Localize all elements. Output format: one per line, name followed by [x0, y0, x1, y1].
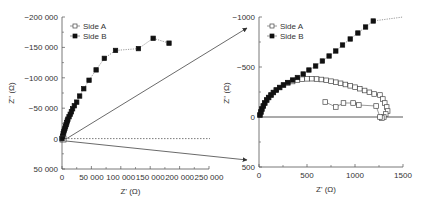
y-tick-label: 500 [242, 163, 256, 172]
data-point [363, 25, 367, 29]
data-point [329, 79, 334, 84]
y-tick-label: −100 000 [24, 74, 58, 83]
open-square-marker-icon [270, 24, 274, 28]
y-tick-label: −50 000 [29, 104, 59, 113]
impedance-figure: −200 000−150 000−100 000−50 000050 00005… [0, 0, 423, 206]
data-point [340, 43, 344, 47]
x-tick-label: 1500 [394, 171, 412, 180]
legend-label: Side B [280, 32, 304, 41]
filled-square-marker-icon [270, 34, 274, 38]
y-tick-label: −200 000 [24, 13, 58, 22]
data-point [323, 100, 328, 105]
series-side-b [60, 36, 171, 141]
data-point [324, 78, 329, 83]
data-point [290, 78, 294, 82]
data-point [378, 115, 383, 120]
x-tick-label: 100 000 [106, 173, 135, 182]
right-nyquist-plot-zoomed: −1000−5000500050010001500Z' (Ω)Z'' (Ω)Si… [222, 13, 412, 194]
legend-label: Side B [83, 32, 107, 41]
data-point [351, 101, 356, 106]
data-point [338, 81, 343, 86]
y-tick-label: −150 000 [24, 43, 58, 52]
data-point [334, 49, 338, 53]
data-point [327, 54, 331, 58]
x-tick-label: 500 [300, 171, 314, 180]
zoom-connector-arrows [66, 28, 247, 160]
data-point [286, 80, 290, 84]
x-axis-label: Z' (Ω) [316, 185, 336, 194]
data-point [353, 85, 358, 90]
data-point [295, 75, 299, 79]
data-point [94, 68, 98, 72]
data-point [151, 36, 155, 40]
x-tick-label: 1000 [346, 171, 364, 180]
y-axis-label: Z'' (Ω) [222, 82, 231, 104]
left-nyquist-plot: −200 000−150 000−100 000−50 000050 00005… [7, 13, 224, 196]
data-point [334, 105, 339, 110]
data-point [319, 77, 324, 82]
filled-square-marker-icon [73, 34, 77, 38]
data-point [307, 68, 311, 72]
data-point [167, 41, 171, 45]
open-square-marker-icon [73, 24, 77, 28]
legend-entry: Side A [70, 22, 107, 31]
data-point [372, 92, 377, 97]
legend-entry: Side B [267, 32, 304, 41]
data-point [367, 90, 372, 95]
data-point [301, 72, 305, 76]
data-point [310, 76, 315, 81]
x-tick-label: 250 000 [195, 173, 224, 182]
legend-entry: Side B [70, 32, 107, 41]
data-point [113, 48, 117, 52]
y-tick-label: −1000 [233, 13, 256, 22]
y-axis-label: Z'' (Ω) [7, 82, 16, 104]
data-point [82, 87, 86, 91]
y-tick-label: 50 000 [34, 165, 59, 174]
legend-entry: Side A [267, 22, 304, 31]
y-tick-label: −500 [237, 63, 256, 72]
data-point [136, 46, 140, 50]
legend-label: Side A [83, 22, 107, 31]
data-point [358, 86, 363, 91]
x-tick-label: 0 [60, 173, 65, 182]
data-point [77, 94, 81, 98]
data-point [371, 19, 375, 23]
data-point [334, 80, 339, 85]
x-tick-label: 50 000 [79, 173, 104, 182]
data-point [356, 31, 360, 35]
data-point [305, 77, 310, 82]
data-point [320, 59, 324, 63]
data-point [281, 83, 285, 87]
data-point [357, 103, 362, 108]
x-tick-label: 200 000 [165, 173, 194, 182]
x-tick-label: 150 000 [136, 173, 165, 182]
series-side-a [258, 76, 390, 120]
data-point [314, 77, 319, 82]
x-tick-label: 0 [257, 171, 262, 180]
y-tick-label: 0 [251, 113, 256, 122]
legend-label: Side A [280, 22, 304, 31]
data-point [102, 56, 106, 60]
data-point [75, 100, 79, 104]
data-point [374, 104, 379, 109]
x-axis-label: Z' (Ω) [121, 187, 141, 196]
data-point [313, 64, 317, 68]
data-point [87, 78, 91, 82]
data-point [348, 84, 353, 89]
data-point [362, 88, 367, 93]
data-point [341, 101, 346, 106]
data-point [300, 77, 305, 82]
data-point [343, 82, 348, 87]
y-tick-label: 0 [54, 135, 59, 144]
data-point [348, 37, 352, 41]
